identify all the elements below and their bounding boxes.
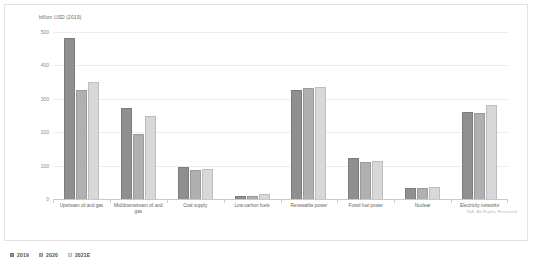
category-label-text: Upstream oil and gas [60,203,103,208]
category-label: Low-carbon fuels [224,199,281,215]
category-label-text: Renewable power [291,203,328,208]
bar[interactable] [202,169,213,199]
category-label-text: Coal supply [183,203,207,208]
bar-group [224,32,281,199]
y-axis-tick-label: 0 [46,196,49,202]
bar[interactable] [474,113,485,199]
category-label-text: Fossil fuel power [349,203,383,208]
bar[interactable] [133,134,144,199]
bar[interactable] [372,161,383,199]
category-label: Fossil fuel power [337,199,394,215]
bar[interactable] [291,90,302,199]
category-label-text: Electricity networks [460,203,499,208]
category-label: Renewable power [281,199,338,215]
bar[interactable] [429,187,440,199]
category-label-text: Nuclear [415,203,431,208]
bar[interactable] [486,105,497,199]
bar-group [53,32,110,199]
chart-screenshot: billion USD (2019) 5004003002001000 Upst… [0,0,534,274]
bar[interactable] [76,90,87,199]
bar-group [281,32,338,199]
axis-tick-mark [394,199,395,203]
bar[interactable] [178,167,189,199]
legend-swatch-icon [10,253,14,257]
legend-label: 2021E [75,252,90,258]
bar[interactable] [190,170,201,199]
axis-tick-mark [224,199,225,203]
bar[interactable] [145,116,156,200]
plot-area: 5004003002001000 [53,32,508,199]
legend-item[interactable]: 2021E [68,252,90,258]
category-label: Nuclear [394,199,451,215]
axis-tick-mark [167,199,168,203]
axis-tick-mark [281,199,282,203]
bar[interactable] [121,108,132,199]
bar[interactable] [462,112,473,200]
axis-tick-mark [337,199,338,203]
bar[interactable] [64,38,75,199]
axis-tick-mark [110,199,111,203]
category-label-text: Mid/downstream oil and gas [114,203,163,214]
legend-swatch-icon [68,253,72,257]
y-axis-tick-label: 300 [41,96,49,102]
bar-groups [53,32,508,199]
y-axis-tick-label: 200 [41,129,49,135]
axis-tick-mark [451,199,452,203]
y-axis-unit-label: billion USD (2019) [39,14,81,20]
category-label: Coal supply [167,199,224,215]
bar-group [451,32,508,199]
y-axis-tick-label: 500 [41,29,49,35]
category-label-text: Low-carbon fuels [235,203,270,208]
bar-group [167,32,224,199]
legend-item[interactable]: 2019 [10,252,29,258]
bar[interactable] [315,87,326,199]
chart-card: billion USD (2019) 5004003002001000 Upst… [4,4,528,241]
axis-tick-mark [53,199,54,203]
category-label: Mid/downstream oil and gas [110,199,167,215]
bar[interactable] [405,188,416,199]
bar[interactable] [417,188,428,199]
bar-group [110,32,167,199]
y-axis-tick-label: 100 [41,163,49,169]
bar-group [337,32,394,199]
bar[interactable] [348,158,359,199]
legend-label: 2020 [46,252,58,258]
bar-group [394,32,451,199]
legend-item[interactable]: 2020 [39,252,58,258]
bar[interactable] [303,88,314,199]
bar[interactable] [88,82,99,199]
copyright-notice: IEA. All Rights Reserved [467,209,517,214]
category-axis: Upstream oil and gasMid/downstream oil a… [53,199,508,225]
axis-tick-mark [507,199,508,203]
y-axis-tick-label: 400 [41,62,49,68]
legend-swatch-icon [39,253,43,257]
bar[interactable] [360,162,371,199]
legend-label: 2019 [17,252,29,258]
category-label: Upstream oil and gas [53,199,110,215]
chart-legend: 201920202021E [10,252,90,258]
